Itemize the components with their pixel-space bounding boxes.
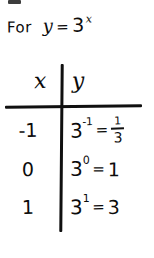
cell-y-value: 3 -1 = 1 3 xyxy=(70,114,125,145)
result-value: 1 xyxy=(108,154,120,184)
power-base: 3 xyxy=(70,192,83,222)
cell-x-value: 1 xyxy=(0,192,56,223)
title-variable-y: y xyxy=(43,15,54,36)
fraction-denominator: 3 xyxy=(113,129,122,144)
title-word-for: For xyxy=(7,18,32,36)
equals-sign: = xyxy=(92,154,105,184)
table-row: 0 3 0 = 1 xyxy=(0,154,154,191)
equals-sign: = xyxy=(92,192,105,222)
cell-x-value: 0 xyxy=(0,154,56,185)
cell-x-value: -1 xyxy=(0,114,56,145)
table-header-y: y xyxy=(72,70,85,92)
equals-sign: = xyxy=(95,115,108,145)
title-exponent-x: x xyxy=(86,12,93,25)
table-header-x: x xyxy=(34,70,47,92)
power-base: 3 xyxy=(70,115,84,145)
power-base: 3 xyxy=(70,154,83,184)
title-expression: For y = 3 x xyxy=(7,13,92,36)
fraction-numerator: 1 xyxy=(114,115,121,127)
power-exponent: 1 xyxy=(83,184,90,214)
table-row: -1 3 -1 = 1 3 xyxy=(0,115,154,152)
table-row: 1 3 1 = 3 xyxy=(0,192,154,229)
title-base-3: 3 xyxy=(72,14,85,36)
title-equals-sign: = xyxy=(56,18,69,36)
handwritten-note-page: For y = 3 x x y -1 3 -1 = 1 3 0 3 0 = 1 xyxy=(0,0,154,258)
cell-y-value: 3 0 = 1 xyxy=(70,154,120,185)
result-value: 3 xyxy=(108,192,120,222)
cell-y-value: 3 1 = 3 xyxy=(70,192,120,222)
stray-ink-mark-icon xyxy=(8,0,21,4)
power-exponent: 0 xyxy=(83,146,90,176)
power-exponent: -1 xyxy=(82,107,93,137)
table-header-underline xyxy=(5,104,142,108)
fraction: 1 3 xyxy=(111,115,125,144)
